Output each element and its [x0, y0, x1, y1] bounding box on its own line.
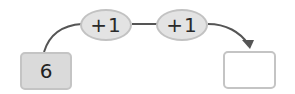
step-label-2: +1 — [166, 13, 197, 37]
start-number: 6 — [40, 59, 53, 83]
arrowhead-icon — [242, 40, 254, 49]
start-number-box: 6 — [20, 52, 72, 90]
step-label-1: +1 — [90, 13, 121, 37]
step-oval-1: +1 — [80, 9, 132, 41]
step-oval-2: +1 — [156, 9, 208, 41]
curve-start-to-step1 — [44, 24, 82, 52]
answer-box[interactable] — [223, 51, 276, 89]
curve-step2-to-answer — [208, 24, 248, 44]
